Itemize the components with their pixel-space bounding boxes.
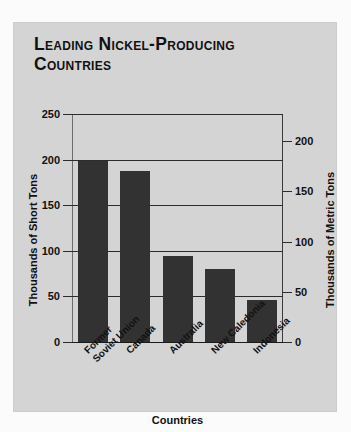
left-tick-100 — [63, 251, 72, 252]
left-tick-0 — [63, 342, 72, 343]
x-axis-title: Countries — [72, 414, 283, 426]
chart-page: Leading Nickel-Producing Countries Thous… — [0, 0, 351, 432]
left-tick-label-0: 0 — [54, 336, 60, 348]
right-tick-150 — [283, 191, 292, 192]
right-tick-label-0: 0 — [295, 336, 301, 348]
right-tick-label-200: 200 — [295, 135, 313, 147]
right-tick-label-50: 50 — [295, 286, 307, 298]
right-tick-0 — [283, 342, 292, 343]
left-tick-label-250: 250 — [42, 108, 60, 120]
left-tick-250 — [63, 114, 72, 115]
right-tick-200 — [283, 141, 292, 142]
left-tick-label-100: 100 — [42, 245, 60, 257]
left-axis-title: Thousands of Short Tons — [27, 174, 39, 306]
right-tick-100 — [283, 242, 292, 243]
bar — [78, 161, 108, 342]
right-tick-label-150: 150 — [295, 185, 313, 197]
right-axis-title: Thousands of Metric Tons — [324, 172, 336, 308]
left-tick-label-200: 200 — [42, 154, 60, 166]
left-tick-200 — [63, 160, 72, 161]
right-tick-50 — [283, 292, 292, 293]
left-tick-50 — [63, 296, 72, 297]
right-tick-label-100: 100 — [295, 236, 313, 248]
left-tick-label-50: 50 — [48, 290, 60, 302]
left-tick-label-150: 150 — [42, 199, 60, 211]
left-tick-150 — [63, 205, 72, 206]
chart-panel: Leading Nickel-Producing Countries Thous… — [13, 22, 337, 412]
chart-title: Leading Nickel-Producing Countries — [34, 34, 314, 74]
